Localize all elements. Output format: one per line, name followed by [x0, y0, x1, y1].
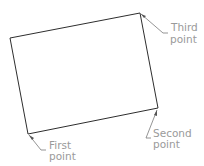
third-point-label-line1: Third: [170, 21, 198, 33]
first-point-label-line2: point: [49, 150, 76, 162]
third-point-callout: Third point: [141, 14, 198, 45]
second-point-label-line2: point: [153, 138, 180, 150]
rectangle-outline: [10, 13, 158, 134]
second-point-arrow-icon: [154, 110, 157, 116]
first-point-arrow-icon: [29, 135, 34, 140]
second-point-callout: Second point: [146, 110, 192, 150]
third-point-label-line2: point: [170, 33, 197, 45]
rectangle-diagram: Third point Second point First point: [0, 0, 204, 166]
first-point-callout: First point: [29, 135, 76, 162]
